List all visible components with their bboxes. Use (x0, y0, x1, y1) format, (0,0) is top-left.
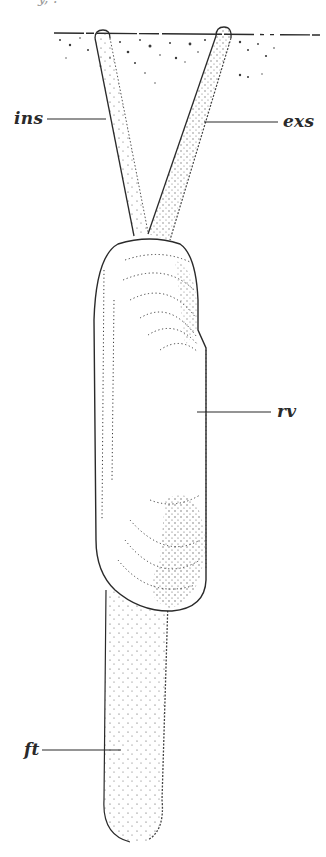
sediment-surface (54, 33, 320, 84)
exhalant-siphon (148, 27, 231, 240)
label-rv: rv (277, 403, 296, 420)
label-ins: ins (14, 110, 43, 127)
right-valve-shell (94, 239, 206, 611)
bivalve-illustration (0, 0, 326, 857)
label-exs: exs (283, 113, 314, 130)
foot (104, 590, 168, 842)
label-ft: ft (24, 741, 40, 758)
inhalant-siphon (95, 30, 148, 236)
